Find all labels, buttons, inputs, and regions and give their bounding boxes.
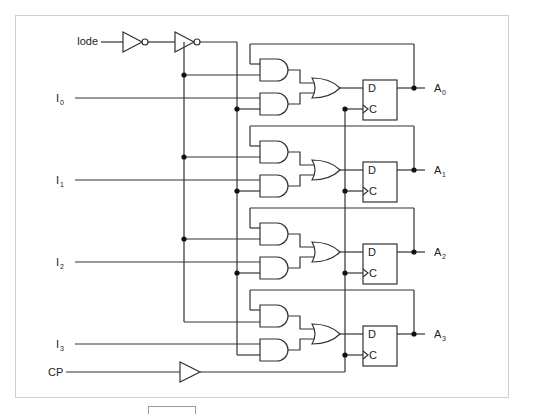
clock-buffer	[180, 362, 200, 382]
svg-text:A: A	[434, 328, 442, 340]
svg-text:A: A	[434, 164, 442, 176]
stage-0: D C	[75, 44, 425, 120]
output-a3: A 3	[434, 328, 446, 342]
svg-text:D: D	[368, 164, 376, 176]
svg-text:C: C	[369, 185, 377, 197]
or-gate	[312, 78, 340, 98]
input-i1: I 1	[56, 174, 64, 188]
inverter-1	[123, 32, 148, 52]
input-i0: I 0	[56, 92, 64, 106]
svg-text:D: D	[368, 328, 376, 340]
svg-text:C: C	[369, 267, 377, 279]
svg-text:3: 3	[60, 345, 64, 352]
svg-text:2: 2	[60, 263, 64, 270]
output-a2: A 2	[434, 246, 446, 260]
output-a1: A 1	[434, 164, 446, 178]
svg-text:I: I	[56, 338, 59, 350]
and-gate	[260, 59, 288, 81]
load-label: lode	[77, 35, 98, 47]
svg-text:A: A	[434, 82, 442, 94]
cp-label: CP	[48, 366, 63, 378]
svg-text:1: 1	[442, 171, 446, 178]
stage-2: D C	[75, 208, 425, 284]
stage-1: D C	[75, 126, 425, 202]
svg-text:0: 0	[442, 89, 446, 96]
and-gate	[260, 93, 288, 115]
svg-text:C: C	[369, 349, 377, 361]
circuit-diagram: lode CP D C	[0, 0, 540, 414]
stage-3: D C	[75, 290, 425, 366]
svg-text:0: 0	[60, 99, 64, 106]
svg-text:3: 3	[442, 335, 446, 342]
svg-text:D: D	[368, 82, 376, 94]
svg-text:2: 2	[442, 253, 446, 260]
svg-text:I: I	[56, 174, 59, 186]
input-i3: I 3	[56, 338, 64, 352]
input-i2: I 2	[56, 256, 64, 270]
output-a0: A 0	[434, 82, 446, 96]
svg-text:C: C	[369, 103, 377, 115]
svg-text:I: I	[56, 256, 59, 268]
inverter-2	[175, 32, 200, 52]
svg-text:A: A	[434, 246, 442, 258]
svg-text:D: D	[368, 246, 376, 258]
svg-text:1: 1	[60, 181, 64, 188]
svg-text:I: I	[56, 92, 59, 104]
